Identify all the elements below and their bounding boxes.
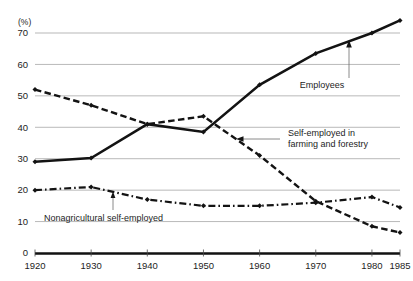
y-tick-label-0: 0 — [23, 247, 28, 258]
data-point-marker — [145, 197, 150, 202]
annotation-nonagricultural-label: Nonagricultural self-employed — [44, 213, 163, 223]
annotation-employees-label: Employees — [300, 80, 345, 90]
x-tick-label-1930: 1930 — [81, 260, 102, 271]
x-tick-label-1940: 1940 — [137, 260, 158, 271]
x-tick-label-1960: 1960 — [249, 260, 270, 271]
data-point-marker — [33, 188, 38, 193]
chart-container: 010203040506070 (%) 19201930194019501960… — [0, 0, 413, 281]
annotation-farming-label-line2: farming and forestry — [288, 139, 369, 149]
y-axis-tick-labels: 010203040506070 — [17, 27, 28, 258]
y-tick-label-20: 20 — [17, 184, 28, 195]
line-chart: 010203040506070 (%) 19201930194019501960… — [0, 0, 413, 281]
data-point-marker — [33, 159, 38, 164]
x-tick-label-1985: 1985 — [389, 260, 410, 271]
y-tick-label-30: 30 — [17, 153, 28, 164]
data-point-marker — [89, 185, 94, 190]
y-tick-label-40: 40 — [17, 122, 28, 133]
series-group — [33, 18, 403, 235]
data-point-marker — [398, 230, 403, 235]
data-point-marker — [201, 114, 206, 119]
y-tick-label-50: 50 — [17, 90, 28, 101]
y-tick-label-60: 60 — [17, 59, 28, 70]
annotation-farming-label-line1: Self-employed in — [288, 128, 355, 138]
series-line-1 — [35, 90, 400, 233]
y-axis-unit-label: (%) — [18, 17, 31, 27]
x-tick-label-1950: 1950 — [193, 260, 214, 271]
x-tick-label-1980: 1980 — [361, 260, 382, 271]
x-tick-label-1970: 1970 — [305, 260, 326, 271]
y-tick-label-70: 70 — [17, 27, 28, 38]
data-point-marker — [257, 203, 262, 208]
data-point-marker — [201, 203, 206, 208]
data-point-marker — [33, 87, 38, 92]
x-tick-label-1920: 1920 — [24, 260, 45, 271]
x-axis-tick-labels: 19201930194019501960197019801985 — [24, 260, 410, 271]
y-tick-label-10: 10 — [17, 216, 28, 227]
data-point-marker — [369, 224, 374, 229]
